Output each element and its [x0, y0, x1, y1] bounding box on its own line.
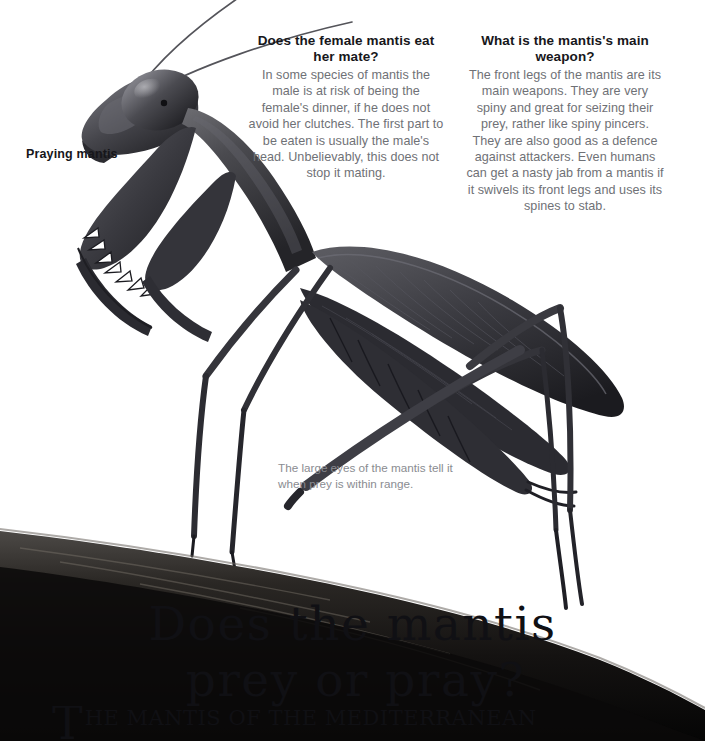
question-heading: Does the female mantis eat her mate? — [247, 33, 445, 65]
question-block-female-mantis: Does the female mantis eat her mate? In … — [247, 33, 445, 182]
question-heading: What is the mantis's main weapon? — [466, 33, 664, 65]
article-body-copy: THE MANTIS OF THE MEDITERRANEAN — [52, 706, 652, 740]
specimen-label: Praying mantis — [26, 147, 118, 161]
page-root: Does the female mantis eat her mate? In … — [0, 0, 705, 741]
question-block-main-weapon: What is the mantis's main weapon? The fr… — [466, 33, 664, 215]
drop-cap: T — [52, 706, 83, 740]
question-body: In some species of mantis the male is at… — [247, 67, 445, 182]
article-opening-text: HE MANTIS OF THE MEDITERRANEAN — [85, 706, 537, 730]
eye-caption: The large eyes of the mantis tell it whe… — [278, 460, 458, 491]
question-body: The front legs of the mantis are its mai… — [466, 67, 664, 215]
